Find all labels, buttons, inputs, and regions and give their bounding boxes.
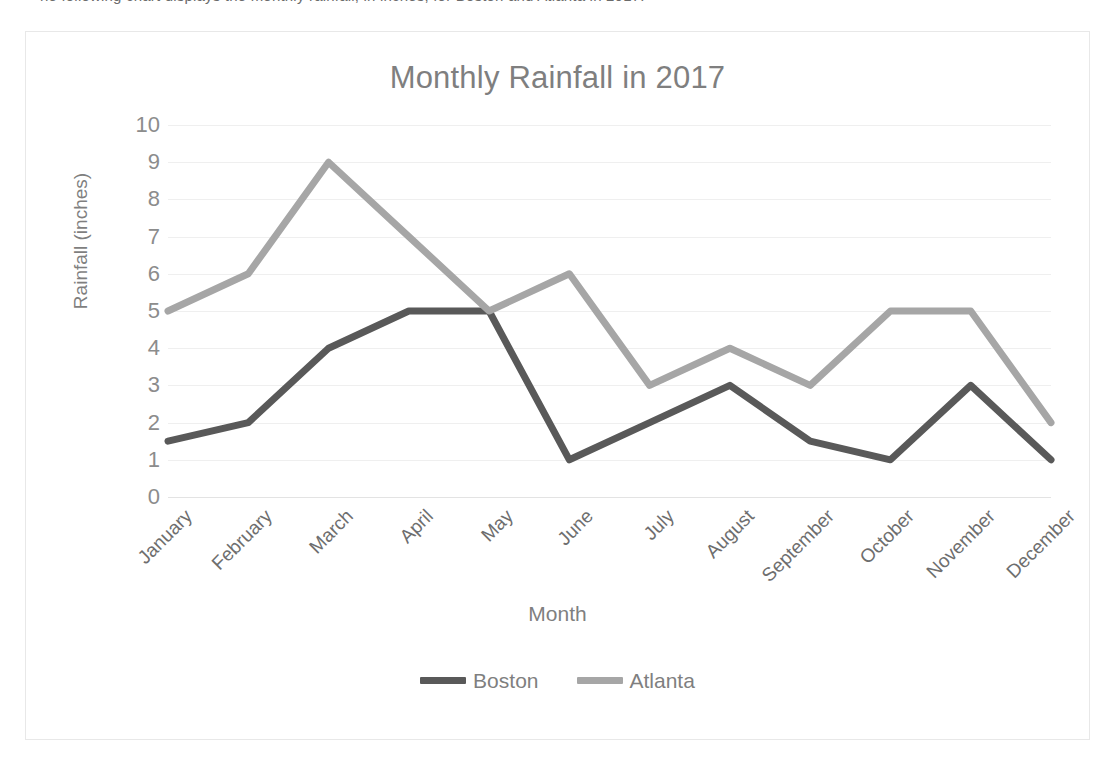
y-axis-tick-label: 5 [148,300,160,322]
chart-legend: BostonAtlanta [26,670,1089,691]
legend-item-boston[interactable]: Boston [420,670,538,691]
x-axis-tick-label: June [442,506,597,661]
y-axis-tick-label: 9 [148,151,160,173]
x-axis-tick-label: May [362,506,517,661]
y-axis-tick-label: 10 [136,114,160,136]
plot-area [168,125,1051,497]
y-axis-title: Rainfall (inches) [70,146,92,336]
series-lines [168,125,1051,497]
legend-swatch-icon [420,677,466,684]
x-axis-tick-label: October [763,506,918,661]
series-line-atlanta [168,162,1051,422]
y-axis-tick-label: 4 [148,337,160,359]
y-axis-tick-label: 6 [148,263,160,285]
y-axis-tick-label: 8 [148,188,160,210]
y-axis-tick-label: 1 [148,449,160,471]
clipped-caption-text: ne following chart displays the monthly … [40,0,740,5]
legend-label: Atlanta [630,670,695,691]
legend-label: Boston [473,670,538,691]
x-axis-tick-label: July [522,506,677,661]
chart-container: Monthly Rainfall in 2017 Rainfall (inche… [25,31,1090,740]
y-axis-tick-label: 2 [148,412,160,434]
y-axis-tick-label: 0 [148,486,160,508]
legend-item-atlanta[interactable]: Atlanta [577,670,695,691]
y-axis-tick-label: 7 [148,226,160,248]
y-axis-tick-labels: 109876543210 [98,125,160,497]
x-axis-tick-label: November [843,506,998,661]
x-axis-tick-label: April [281,506,436,661]
legend-swatch-icon [577,677,623,684]
x-axis-tick-label: January [41,506,196,661]
x-axis-tick-label: August [602,506,757,661]
y-axis-tick-label: 3 [148,374,160,396]
x-axis-tick-label: February [121,506,276,661]
x-axis-tick-label: September [683,506,838,661]
x-axis-tick-label: December [924,506,1079,661]
x-axis-tick-label: March [201,506,356,661]
x-axis-tick-labels: JanuaryFebruaryMarchAprilMayJuneJulyAugu… [168,498,1051,598]
chart-title: Monthly Rainfall in 2017 [26,60,1089,96]
x-axis-title: Month [26,602,1089,626]
